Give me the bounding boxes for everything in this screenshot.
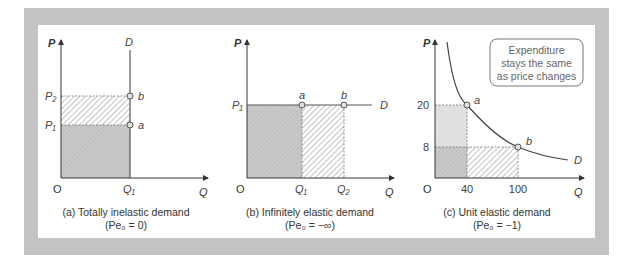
area-expenditure-gain <box>302 105 344 178</box>
x-tick-q1: Q₁ <box>295 183 308 195</box>
y-axis-label: P <box>423 37 431 49</box>
curve-label: D <box>380 99 388 111</box>
point-label-b: b <box>341 89 347 101</box>
origin-label: O <box>236 183 245 195</box>
point-b <box>515 144 521 150</box>
x-tick-q2: Q₂ <box>337 183 351 195</box>
panel-a: P D P₂ P₁ b a O Q₁ Q (a) Totally inelast… <box>45 36 208 231</box>
origin-label: O <box>53 183 62 195</box>
point-b <box>341 102 347 108</box>
area-expenditure-gain <box>467 147 518 178</box>
area-expenditure-loss <box>435 105 467 147</box>
point-a <box>464 102 470 108</box>
y-tick-p1: P₁ <box>232 99 243 111</box>
x-tick-40: 40 <box>461 183 473 195</box>
point-label-b: b <box>138 90 144 102</box>
point-b <box>127 93 133 99</box>
panel-c: P D 20 8 a b O 40 100 Q Expenditure stay… <box>417 37 584 231</box>
x-axis-label: Q <box>199 186 208 198</box>
point-label-b: b <box>526 135 532 147</box>
caption: (a) Totally inelastic demand <box>62 206 189 218</box>
subcaption: (Pe₀ = 0) <box>105 219 147 231</box>
y-axis-label: P <box>48 37 56 49</box>
annotation-line-1: Expenditure <box>508 44 564 56</box>
area-expenditure-gain <box>61 96 130 125</box>
y-tick-8: 8 <box>423 141 429 153</box>
caption: (c) Unit elastic demand <box>443 206 551 218</box>
annotation-line-3: as price changes <box>497 70 576 82</box>
origin-label: O <box>423 183 432 195</box>
elasticity-figure: P D P₂ P₁ b a O Q₁ Q (a) Totally inelast… <box>0 0 634 266</box>
point-a <box>299 102 305 108</box>
x-axis-label: Q <box>574 186 583 198</box>
panel-b: P D P₁ a b O Q₁ Q₂ Q (b) Infinitely elas… <box>232 37 394 231</box>
y-tick-p1: P₁ <box>45 119 56 131</box>
y-tick-20: 20 <box>417 99 429 111</box>
x-axis-label: Q <box>385 186 394 198</box>
area-common-expenditure <box>435 147 467 178</box>
annotation-line-2: stays the same <box>501 57 572 69</box>
y-axis-label: P <box>234 37 242 49</box>
point-a <box>127 122 133 128</box>
subcaption: (Pe₀ = −1) <box>473 219 521 231</box>
point-label-a: a <box>299 89 305 101</box>
point-label-a: a <box>138 119 144 131</box>
subcaption: (Pe₀ = −∞) <box>285 219 335 231</box>
curve-label: D <box>125 36 133 48</box>
area-original-expenditure <box>61 125 130 178</box>
area-original-expenditure <box>247 105 302 178</box>
x-tick-q1: Q₁ <box>123 183 136 195</box>
x-tick-100: 100 <box>509 183 527 195</box>
curve-label: D <box>574 154 582 166</box>
y-tick-p2: P₂ <box>45 90 57 102</box>
point-label-a: a <box>474 94 480 106</box>
caption: (b) Infinitely elastic demand <box>246 206 374 218</box>
